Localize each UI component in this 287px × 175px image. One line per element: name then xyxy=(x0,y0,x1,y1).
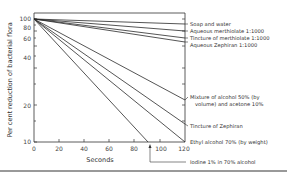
y-tick-label: 60 xyxy=(23,35,31,42)
line-aqueous-zephiran xyxy=(34,19,185,42)
legend-tincture-merthiolate: Tincture of merthiolate 1:1000 xyxy=(189,35,269,41)
x-tick-label: 80 xyxy=(130,145,138,152)
x-tick-label: 60 xyxy=(105,145,113,152)
line-aqueous-merthiolate xyxy=(34,19,185,31)
y-axis-title: Per cent reduction of bacterial flora xyxy=(6,22,14,137)
legend-aqueous-zephiran: Aqueous Zephiran 1:1000 xyxy=(190,42,257,49)
x-ticks xyxy=(59,139,160,142)
line-alcohol-acetone-mixture xyxy=(34,19,185,100)
legend-connectors xyxy=(149,24,189,162)
legend-aqueous-merthiolate: Aqueous merthiolate 1:1000 xyxy=(190,28,264,35)
legend-tincture-zephiran: Tincture of Zephiran xyxy=(189,123,243,130)
x-tick-labels: 0 20 40 60 80 100 120 xyxy=(32,145,190,152)
legend-mixture-line1: Mixture of alcohol 50% (by xyxy=(190,94,260,101)
y-tick-label: 80 xyxy=(23,24,31,31)
x-axis-title: Seconds xyxy=(86,156,114,164)
x-tick-label: 100 xyxy=(155,145,167,152)
x-tick-label: 20 xyxy=(55,145,63,152)
line-ethyl-alcohol xyxy=(34,19,185,142)
x-tick-label: 40 xyxy=(80,145,88,152)
line-iodine xyxy=(34,19,148,142)
legend-soap: Soap and water xyxy=(190,21,232,28)
chart: 100 80 60 40 20 10 0 20 40 60 80 100 120… xyxy=(0,0,287,175)
legend-mixture-line2: volume) and acetone 10% xyxy=(195,101,263,107)
legend: Soap and water Aqueous merthiolate 1:100… xyxy=(189,21,269,165)
x-tick-label: 120 xyxy=(178,145,190,152)
y-tick-labels: 100 80 60 40 20 10 xyxy=(20,15,32,145)
x-tick-label: 0 xyxy=(32,145,36,152)
y-tick-label: 10 xyxy=(23,138,31,145)
axes xyxy=(34,13,185,142)
bottom-divider xyxy=(0,170,287,172)
y-tick-label: 40 xyxy=(23,54,31,61)
legend-iodine: Iodine 1% in 70% alcohol xyxy=(190,159,256,165)
y-tick-label: 100 xyxy=(20,15,32,22)
y-tick-label: 20 xyxy=(23,102,31,109)
legend-ethyl-alcohol: Ethyl alcohol 70% (by weight) xyxy=(190,139,268,146)
arrow-up-icon xyxy=(149,144,152,148)
data-lines xyxy=(34,19,185,142)
